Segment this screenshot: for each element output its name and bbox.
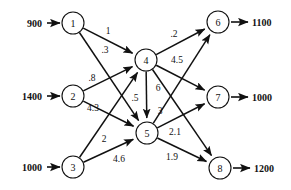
io-value-labels-layer: 90014001000110010001200 <box>22 17 274 174</box>
node-label-6: 6 <box>216 17 221 28</box>
edge-weight-5-6: 3 <box>158 106 163 116</box>
edge-weight-1-4: 1 <box>106 26 111 36</box>
output-value-2: 1000 <box>252 92 272 103</box>
edge-weight-4-6: .2 <box>170 29 177 39</box>
input-value-1: 900 <box>27 18 42 29</box>
node-5[interactable]: 5 <box>136 122 158 144</box>
output-value-3: 1200 <box>254 163 274 174</box>
node-label-2: 2 <box>71 91 76 102</box>
node-8[interactable]: 8 <box>209 157 231 179</box>
edge-weight-4-8: 6 <box>156 83 161 93</box>
edge-weight-3-5: 4.6 <box>113 154 125 164</box>
edge-3-to-5 <box>83 139 133 162</box>
node-2[interactable]: 2 <box>62 85 84 107</box>
edge-weight-4-7: 4.5 <box>171 55 183 65</box>
edge-5-to-7 <box>157 104 204 128</box>
node-label-3: 3 <box>71 162 76 173</box>
input-value-2: 1400 <box>22 91 42 102</box>
node-label-4: 4 <box>144 55 149 66</box>
edge-weight-2-4: .8 <box>88 73 95 83</box>
network-diagram: 12345678 1.3.84.324.6.5.24.5632.11.9 900… <box>0 0 291 190</box>
edge-weight-4-5: .5 <box>131 93 138 103</box>
node-7[interactable]: 7 <box>207 86 229 108</box>
input-value-3: 1000 <box>22 162 42 173</box>
edge-weight-3-4: 2 <box>102 134 107 144</box>
edge-3-to-4 <box>79 72 137 157</box>
node-label-1: 1 <box>71 18 76 29</box>
network-diagram-canvas: 12345678 1.3.84.324.6.5.24.5632.11.9 900… <box>0 0 291 190</box>
node-label-7: 7 <box>216 92 221 103</box>
edge-weight-5-8: 1.9 <box>166 152 178 162</box>
node-6[interactable]: 6 <box>207 11 229 33</box>
node-4[interactable]: 4 <box>135 49 157 71</box>
node-3[interactable]: 3 <box>62 156 84 178</box>
node-label-8: 8 <box>218 163 223 174</box>
node-1[interactable]: 1 <box>62 12 84 34</box>
output-value-1: 1100 <box>252 17 271 28</box>
edge-4-to-5 <box>146 71 147 118</box>
edge-5-to-8 <box>157 138 206 162</box>
edge-4-to-6 <box>156 29 205 55</box>
node-label-5: 5 <box>145 128 150 139</box>
edge-weight-2-5: 4.3 <box>87 103 99 113</box>
edge-weight-1-5: .3 <box>101 45 108 55</box>
edge-weight-5-7: 2.1 <box>169 127 181 137</box>
